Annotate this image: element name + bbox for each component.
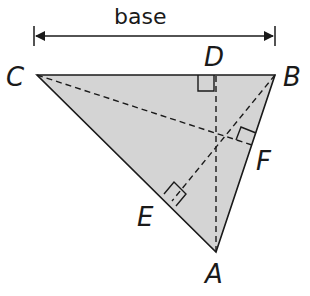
base-dimension xyxy=(34,26,275,46)
label-D: D xyxy=(204,42,224,72)
label-C: C xyxy=(6,62,25,92)
triangle-diagram: base C B A D F E xyxy=(0,0,310,296)
label-B: B xyxy=(283,62,301,92)
base-label: base xyxy=(114,4,166,29)
label-F: F xyxy=(256,146,272,176)
label-A: A xyxy=(203,259,223,289)
label-E: E xyxy=(137,202,154,232)
triangle xyxy=(37,75,275,252)
